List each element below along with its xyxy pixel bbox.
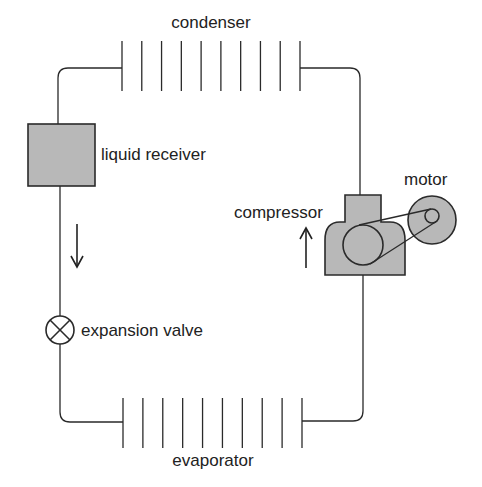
compressor-label: compressor bbox=[234, 203, 323, 222]
motor bbox=[408, 196, 456, 244]
liquid-receiver bbox=[28, 124, 95, 186]
expansion-valve bbox=[46, 316, 74, 344]
top-right-pipe bbox=[300, 68, 360, 195]
motor-label: motor bbox=[404, 170, 448, 189]
top-left-pipe bbox=[58, 68, 122, 124]
flow-arrow-up-icon bbox=[300, 228, 312, 268]
flow-arrow-down-icon bbox=[71, 224, 83, 267]
refrigeration-cycle-diagram: condenser evaporator liquid receiver exp… bbox=[0, 0, 482, 487]
condenser-label: condenser bbox=[171, 13, 251, 32]
condenser bbox=[122, 41, 300, 91]
evaporator-label: evaporator bbox=[172, 451, 254, 470]
liquid-receiver-label: liquid receiver bbox=[101, 145, 206, 164]
compressor bbox=[325, 195, 405, 275]
evaporator bbox=[123, 398, 302, 448]
bottom-left-pipe bbox=[60, 344, 123, 422]
bottom-right-pipe bbox=[302, 275, 363, 421]
expansion-valve-label: expansion valve bbox=[81, 321, 203, 340]
